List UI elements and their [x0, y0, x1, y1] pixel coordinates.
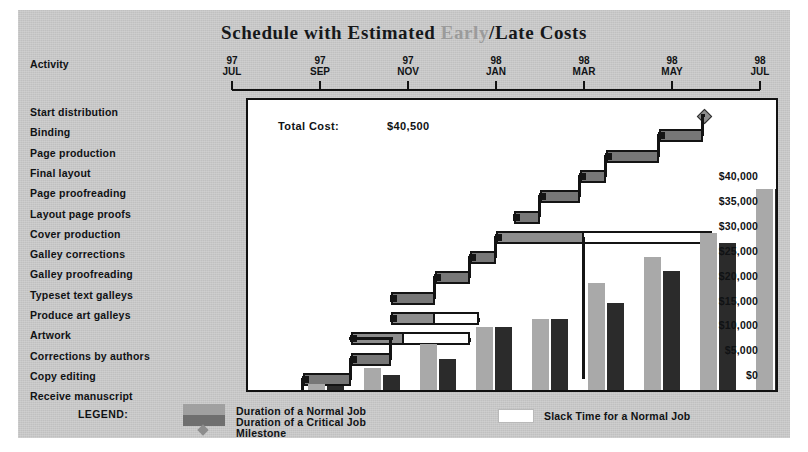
legend-label-milestone: Milestone [236, 427, 286, 439]
cost-axis-tick-label: $15,000 [618, 295, 758, 307]
tick-month: JAN [486, 66, 506, 77]
cost-bar-late [719, 243, 736, 390]
legend: LEGEND: Duration of a Normal Job Duratio… [18, 402, 790, 442]
activity-label: Artwork [30, 329, 71, 341]
dependency-connector-vertical [578, 176, 581, 197]
total-cost-value: $40,500 [387, 120, 430, 132]
dependency-connector-vertical [349, 359, 352, 380]
dependency-connector-stub [477, 318, 480, 322]
tick-year: 98 [666, 55, 677, 66]
title-part-1: Schedule with Estimated [221, 22, 441, 43]
tick-month: SEP [310, 66, 330, 77]
cost-axis-tick-label: $5,000 [618, 344, 758, 356]
dependency-connector-stub [468, 338, 471, 342]
cost-bar-late [383, 375, 400, 390]
dependency-connector-horizontal [578, 175, 582, 178]
title-part-2: /Late [489, 22, 534, 43]
dependency-connector-horizontal [468, 256, 472, 259]
cost-bar-late [551, 319, 568, 390]
gantt-bar-normal [391, 312, 435, 325]
cost-axis-tick-label: $20,000 [618, 270, 758, 282]
dependency-connector-horizontal [301, 378, 305, 381]
activity-label: Binding [30, 126, 70, 138]
legend-swatch-normal-job [183, 404, 225, 415]
cost-bar-late [495, 327, 512, 390]
x-axis-tick-label: 98MAR [562, 56, 606, 77]
x-axis-tick-mark [407, 81, 409, 90]
x-axis-tick-mark [231, 81, 233, 90]
dependency-connector-horizontal [657, 134, 661, 137]
dependency-connector-vertical [604, 156, 607, 177]
gantt-dependency-joint [390, 315, 397, 322]
dependency-connector-horizontal [433, 276, 437, 279]
cost-bar-early [700, 233, 717, 390]
tick-month: JUL [751, 66, 770, 77]
cost-bar-early [308, 384, 325, 390]
tick-year: 98 [578, 55, 589, 66]
dependency-connector-horizontal [349, 358, 353, 361]
x-axis-tick-mark [583, 81, 585, 90]
cost-axis-tick-label: $35,000 [618, 195, 758, 207]
gantt-bar-critical [659, 129, 703, 142]
gantt-bar-normal [496, 231, 584, 244]
dependency-connector-vertical [494, 237, 497, 258]
cost-axis-tick-label: $40,000 [618, 170, 758, 182]
legend-swatch-milestone-icon [197, 424, 208, 435]
dependency-connector-vertical [701, 115, 704, 136]
cost-bar-early [588, 283, 605, 390]
tick-year: 97 [226, 55, 237, 66]
activity-label: Start distribution [30, 106, 118, 118]
tick-month: NOV [397, 66, 419, 77]
gantt-bar-slack [435, 312, 479, 325]
dependency-connector-vertical [657, 135, 660, 156]
title-early-word: Early [441, 22, 489, 43]
tick-month: JUL [223, 66, 242, 77]
gantt-bar-slack [584, 231, 712, 244]
chart-panel: Schedule with Estimated Early/Late Costs… [18, 10, 790, 438]
dependency-connector-vertical [538, 196, 541, 217]
x-axis-tick-mark [495, 81, 497, 90]
activity-label: Galley corrections [30, 248, 125, 260]
cost-bar-late [775, 189, 778, 390]
tick-year: 98 [754, 55, 765, 66]
cost-axis-tick-label: $30,000 [618, 220, 758, 232]
cost-axis-tick-label: $0 [618, 369, 758, 381]
cost-bar-early [532, 319, 549, 390]
time-axis: 97JUL97SEP97NOV98JAN98MAR98MAY98JUL [213, 48, 790, 92]
total-cost-label: Total Cost: [278, 120, 339, 132]
x-axis-tick-label: 97SEP [298, 56, 342, 77]
cost-bar-late [327, 386, 344, 390]
activity-label: Page production [30, 147, 116, 159]
x-axis-tick-label: 97NOV [386, 56, 430, 77]
total-cost-annotation: Total Cost:$40,500 [278, 120, 430, 132]
activity-label: Galley proofreading [30, 268, 133, 280]
x-axis-tick-mark [671, 81, 673, 90]
activity-label: Final layout [30, 167, 91, 179]
gantt-bar-critical [606, 150, 659, 163]
dependency-connector-horizontal [349, 337, 393, 340]
dependency-connector-horizontal [538, 195, 542, 198]
screenshot-root: Schedule with Estimated Early/Late Costs… [0, 0, 808, 452]
cost-bar-early [364, 368, 381, 390]
cost-bar-early [420, 344, 437, 390]
cost-bar-early [476, 327, 493, 390]
x-axis-tick-mark [319, 81, 321, 90]
dependency-connector-horizontal [494, 236, 498, 239]
x-axis-tick-label: 98JAN [474, 56, 518, 77]
cost-bar-late [439, 359, 456, 390]
legend-swatch-slack [498, 409, 534, 423]
chart-title: Schedule with Estimated Early/Late Costs [18, 22, 790, 44]
tick-year: 97 [402, 55, 413, 66]
dependency-connector-horizontal [701, 114, 705, 117]
activity-label: Corrections by authors [30, 350, 150, 362]
activity-label: Layout page proofs [30, 208, 131, 220]
x-axis-tick-label: 97JUL [210, 56, 254, 77]
gantt-bar-critical [391, 292, 435, 305]
cost-axis-tick-label: $25,000 [618, 245, 758, 257]
dependency-connector-vertical [433, 277, 436, 298]
activity-label: Produce art galleys [30, 309, 131, 321]
cost-axis-tick-label: $10,000 [618, 319, 758, 331]
cost-bar-early [756, 189, 773, 390]
tick-month: MAR [573, 66, 596, 77]
activity-column-header: Activity [30, 58, 69, 70]
